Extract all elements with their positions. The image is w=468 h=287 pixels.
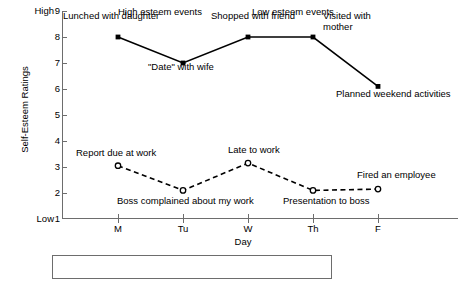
low-esteem-points xyxy=(115,160,380,193)
esteem-ratings-line-chart: Self-Esteem Ratings High Low 9 8 7 6 5 4… xyxy=(0,0,468,287)
high-esteem-line xyxy=(118,37,378,86)
legend-item-high-esteem: High esteem events xyxy=(118,6,202,17)
chart-plot-area xyxy=(0,0,468,287)
chart-legend xyxy=(52,255,332,279)
high-esteem-points xyxy=(116,35,381,89)
low-esteem-line xyxy=(118,163,378,190)
legend-item-low-esteem: Low esteem events xyxy=(252,6,334,17)
